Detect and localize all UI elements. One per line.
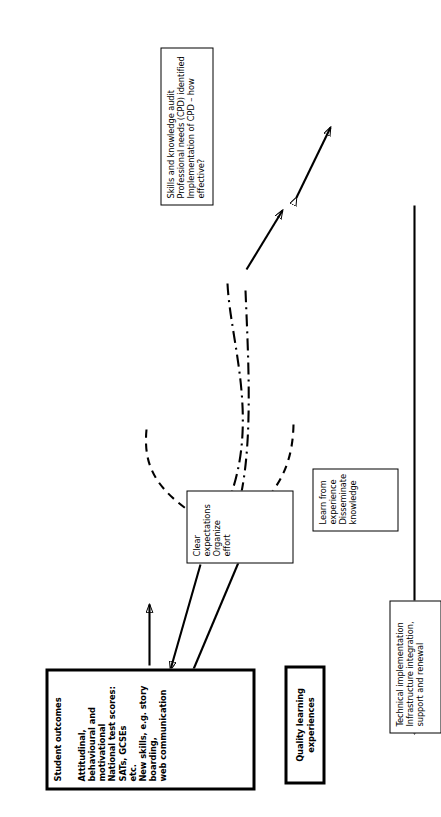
node-learn-from-experience: Learn from experience Disseminate knowle… (312, 468, 398, 531)
edge-leadership-to-learn (234, 290, 248, 519)
flowchart-canvas: Student outcomes Attitudinal, behavioura… (0, 0, 441, 817)
student-outcomes-body: Attitudinal, behavioural and motivationa… (76, 677, 167, 781)
clear-expectations-label: Clear expectations Organize effort (191, 497, 231, 556)
node-technical-implementation: Technical implementation Infrastructure … (389, 600, 441, 733)
student-outcomes-title: Student outcomes (52, 677, 62, 781)
edge-skills-workforce-bidirectional (296, 127, 330, 197)
skills-audit-label: Skills and knowledge audit Professional … (165, 56, 205, 198)
node-quality-learning-experiences: Quality learning experiences (284, 665, 325, 784)
technical-implementation-label: Technical implementation Infrastructure … (394, 621, 424, 726)
quality-learning-label: Quality learning experiences (294, 688, 314, 762)
rotated-canvas-wrapper: Student outcomes Attitudinal, behavioura… (0, 0, 441, 817)
edge-leadership-to-skills (246, 210, 282, 269)
learn-from-experience-label: Learn from experience Disseminate knowle… (317, 474, 357, 524)
figure-page: Student outcomes Attitudinal, behavioura… (0, 0, 441, 817)
node-clear-expectations: Clear expectations Organize effort (186, 490, 293, 563)
edge-learn-to-quality (187, 562, 238, 683)
node-skills-knowledge-audit: Skills and knowledge audit Professional … (160, 47, 213, 205)
edge-clear-expectations-to-quality (170, 564, 200, 669)
node-student-outcomes: Student outcomes Attitudinal, behavioura… (45, 668, 255, 790)
